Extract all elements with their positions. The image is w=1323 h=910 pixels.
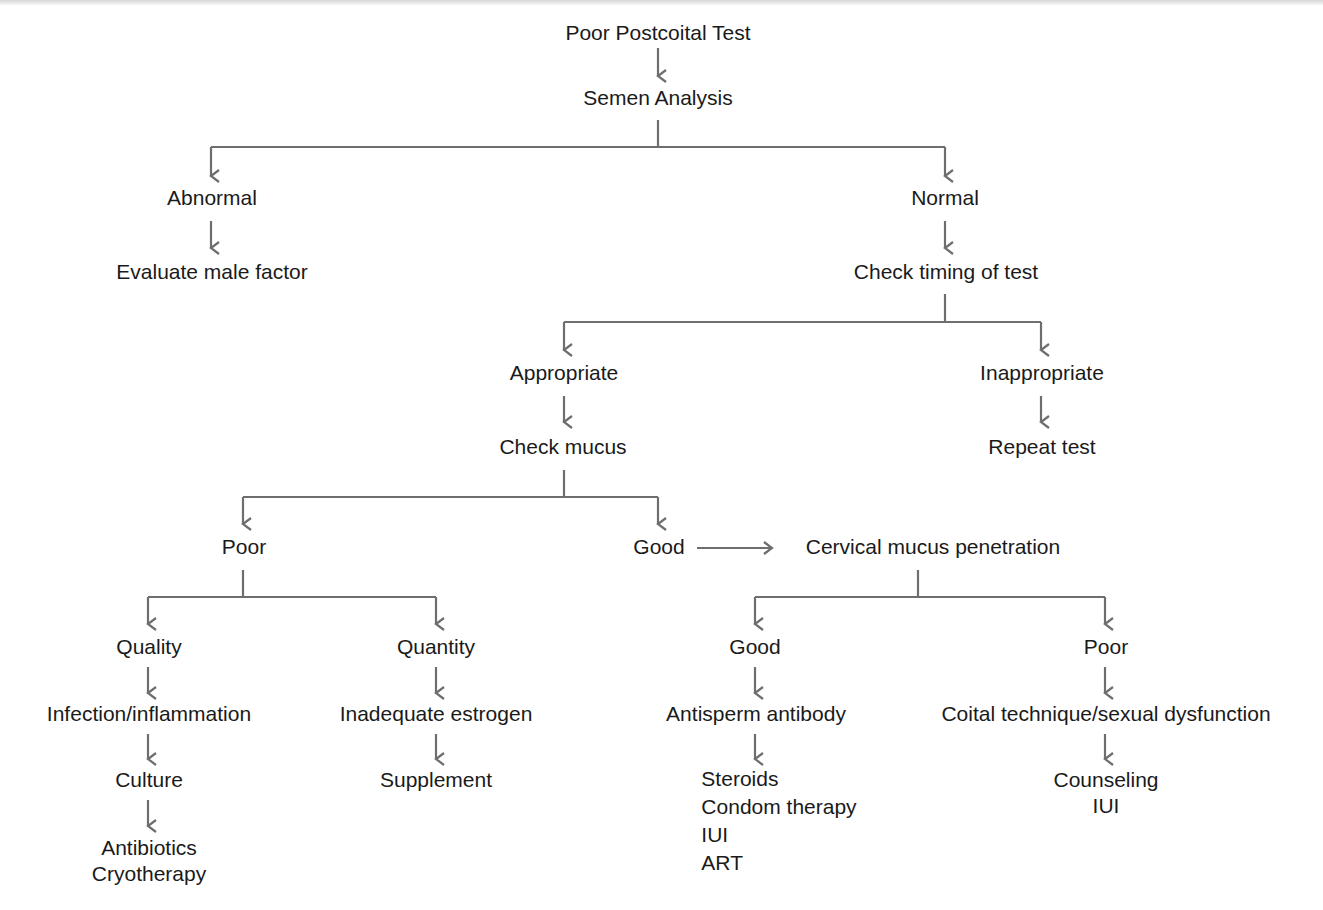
node-label: IUI (1053, 793, 1158, 819)
node-label: Antisperm antibody (666, 701, 846, 727)
node-mucus-good: Good (633, 534, 684, 560)
node-inappropriate: Inappropriate (980, 360, 1104, 386)
flowchart-canvas: Poor Postcoital Test Semen Analysis Abno… (0, 0, 1323, 910)
node-label: Cryotherapy (92, 861, 206, 887)
node-appropriate: Appropriate (510, 360, 619, 386)
node-label: Good (633, 534, 684, 560)
node-label: Cervical mucus penetration (806, 534, 1060, 560)
node-label: Poor (222, 534, 266, 560)
node-label: Inappropriate (980, 360, 1104, 386)
node-supplement: Supplement (380, 767, 492, 793)
node-label: Poor Postcoital Test (565, 20, 750, 46)
node-poor-postcoital-test: Poor Postcoital Test (565, 20, 750, 46)
node-label: Check timing of test (854, 259, 1038, 285)
node-cmp-good: Good (729, 634, 780, 660)
node-label: Infection/inflammation (47, 701, 251, 727)
node-label: Antibiotics (92, 835, 206, 861)
node-coital-technique: Coital technique/sexual dysfunction (941, 701, 1270, 727)
node-label: Condom therapy (701, 793, 856, 821)
node-label: Normal (911, 185, 979, 211)
node-label: Check mucus (499, 434, 626, 460)
node-label: Abnormal (167, 185, 257, 211)
node-label: Culture (115, 767, 183, 793)
node-inadequate-estrogen: Inadequate estrogen (340, 701, 533, 727)
node-cmp-poor: Poor (1084, 634, 1128, 660)
node-label: IUI (701, 821, 856, 849)
node-label: Good (729, 634, 780, 660)
node-label: Coital technique/sexual dysfunction (941, 701, 1270, 727)
node-label: ART (701, 849, 856, 877)
node-label: Poor (1084, 634, 1128, 660)
node-label: Steroids (701, 765, 856, 793)
node-quantity: Quantity (397, 634, 475, 660)
node-label: Supplement (380, 767, 492, 793)
node-semen-analysis: Semen Analysis (583, 85, 732, 111)
node-label: Appropriate (510, 360, 619, 386)
node-label: Semen Analysis (583, 85, 732, 111)
node-label: Inadequate estrogen (340, 701, 533, 727)
node-antibiotics-cryotherapy: Antibiotics Cryotherapy (92, 835, 206, 887)
node-check-mucus: Check mucus (499, 434, 626, 460)
node-counseling-iui: Counseling IUI (1053, 767, 1158, 819)
node-abnormal: Abnormal (167, 185, 257, 211)
node-mucus-poor: Poor (222, 534, 266, 560)
node-check-timing: Check timing of test (854, 259, 1038, 285)
node-antisperm-antibody: Antisperm antibody (666, 701, 846, 727)
node-quality: Quality (116, 634, 181, 660)
node-label: Quality (116, 634, 181, 660)
node-repeat-test: Repeat test (988, 434, 1095, 460)
node-infection-inflammation: Infection/inflammation (47, 701, 251, 727)
node-label: Evaluate male factor (116, 259, 307, 285)
node-cervical-mucus-penetration: Cervical mucus penetration (806, 534, 1060, 560)
node-label: Repeat test (988, 434, 1095, 460)
node-label: Counseling (1053, 767, 1158, 793)
node-normal: Normal (911, 185, 979, 211)
node-steroids-treatments: Steroids Condom therapy IUI ART (701, 765, 856, 877)
node-culture: Culture (115, 767, 183, 793)
node-evaluate-male-factor: Evaluate male factor (116, 259, 307, 285)
node-label: Quantity (397, 634, 475, 660)
